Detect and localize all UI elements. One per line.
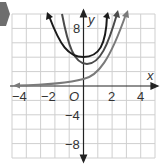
graph: x y O −4 −2 2 4 8 −4 −8 [0,0,162,166]
x-tick-neg4: −4 [12,89,27,104]
x-axis-label: x [146,68,154,83]
x-tick-2: 2 [108,89,115,104]
origin-label: O [69,89,79,104]
y-tick-neg8: −8 [65,137,80,152]
curve-1-right-arrow-icon [103,12,110,19]
y-tick-neg4: −4 [65,108,80,123]
curve-3-left-arrow-icon [13,83,20,89]
y-axis-down-arrow-icon [81,155,87,162]
y-axis-up-arrow-icon [81,10,87,17]
x-axis-arrow-icon [151,83,158,89]
y-tick-8: 8 [73,21,80,36]
x-tick-4: 4 [137,89,144,104]
x-tick-neg2: −2 [41,89,56,104]
section-marker [0,2,10,26]
